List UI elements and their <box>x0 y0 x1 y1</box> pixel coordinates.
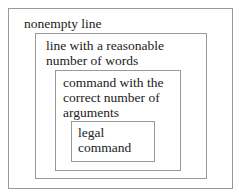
reasonable-word-count-label: line with a reasonable number of words <box>46 38 164 68</box>
correct-argument-count-box: command with the correct number of argum… <box>55 70 181 171</box>
reasonable-word-count-box: line with a reasonable number of words c… <box>35 33 207 179</box>
correct-argument-count-label: command with the correct number of argum… <box>63 75 163 120</box>
nonempty-line-box: nonempty line line with a reasonable num… <box>8 8 233 189</box>
legal-command-box: legal command <box>71 121 155 162</box>
nonempty-line-label: nonempty line <box>24 16 102 31</box>
legal-command-label: legal command <box>78 125 131 155</box>
